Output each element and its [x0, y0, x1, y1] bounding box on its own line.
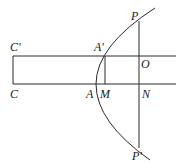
label-a-prime: A' — [93, 40, 104, 54]
label-n: N — [141, 87, 151, 101]
label-o: O — [141, 57, 150, 71]
label-p-prime: P' — [131, 149, 142, 163]
label-a: A — [85, 87, 94, 101]
label-c-prime: C' — [10, 40, 21, 54]
diagram-canvas: C' C A' A M O N P P' — [0, 0, 183, 163]
label-m: M — [99, 87, 111, 101]
label-p: P — [130, 9, 139, 23]
label-c: C — [10, 87, 19, 101]
